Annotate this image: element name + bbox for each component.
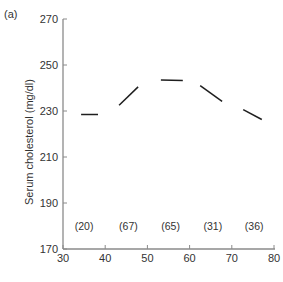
y-tick-label: 190 <box>40 197 58 209</box>
x-tick-label: 30 <box>57 252 69 264</box>
line-segment <box>119 87 138 105</box>
sample-size-label: (31) <box>203 220 222 232</box>
x-tick-label: 50 <box>141 252 153 264</box>
axes <box>63 19 275 249</box>
cholesterol-chart: (a) Serum cholesterol (mg/dl) 1701902102… <box>0 0 283 282</box>
data-series <box>81 80 262 120</box>
sample-size-label: (65) <box>161 220 180 232</box>
sample-size-label: (36) <box>245 220 264 232</box>
y-tick-label: 230 <box>40 105 58 117</box>
y-tick-label: 270 <box>40 13 58 25</box>
panel-label: (a) <box>4 8 17 20</box>
sample-size-label: (67) <box>119 220 138 232</box>
x-tick-label: 60 <box>183 252 195 264</box>
y-tick-label: 210 <box>40 151 58 163</box>
y-axis-label: Serum cholesterol (mg/dl) <box>23 79 35 205</box>
line-segment <box>243 110 262 120</box>
x-tick-label: 40 <box>99 252 111 264</box>
y-tick-label: 170 <box>40 243 58 255</box>
line-segment <box>161 80 183 81</box>
x-tick-label: 70 <box>226 252 238 264</box>
sample-size-label: (20) <box>75 220 94 232</box>
line-segment <box>200 86 222 102</box>
x-tick-label: 80 <box>268 252 280 264</box>
sample-size-annotations: (20)(67)(65)(31)(36) <box>75 220 264 232</box>
y-tick-label: 250 <box>40 59 58 71</box>
